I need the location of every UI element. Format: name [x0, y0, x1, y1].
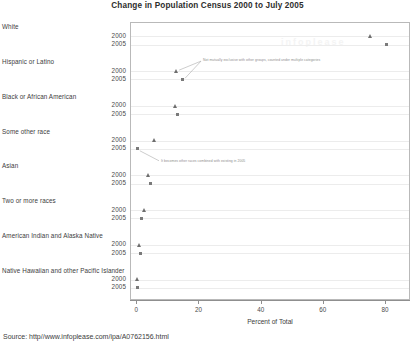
x-tick-label: 0 — [124, 306, 148, 313]
data-point-2000 — [368, 34, 372, 38]
data-point-2000 — [174, 69, 178, 73]
x-tick-label: 80 — [373, 306, 397, 313]
year-tick-label: 2005 — [90, 40, 126, 47]
gridline — [131, 175, 409, 176]
gridline — [131, 184, 409, 185]
gridline — [131, 79, 409, 80]
category-label: Black or African American — [2, 93, 76, 100]
year-tick-label: 2005 — [90, 249, 126, 256]
data-point-2000 — [135, 277, 139, 281]
year-tick-label: 2005 — [90, 144, 126, 151]
x-tick-label: 60 — [311, 306, 335, 313]
gridline — [131, 210, 409, 211]
x-tick-label: 20 — [186, 306, 210, 313]
gridline — [131, 114, 409, 115]
year-tick-label: 2000 — [90, 206, 126, 213]
category-label: Some other race — [2, 128, 50, 135]
year-tick-label: 2005 — [90, 75, 126, 82]
category-label: American Indian and Alaska Native — [2, 232, 103, 239]
source-note: Source: http//www.infoplease.com/ipa/A07… — [3, 333, 169, 340]
category-label: Asian — [2, 162, 18, 169]
year-tick-label: 2000 — [90, 240, 126, 247]
data-point-2000 — [142, 208, 146, 212]
x-tick-label: 40 — [249, 306, 273, 313]
year-tick-label: 2000 — [90, 101, 126, 108]
gridline — [131, 245, 409, 246]
data-point-2005 — [149, 182, 152, 185]
year-tick-label: 2005 — [90, 179, 126, 186]
data-point-2005 — [139, 252, 142, 255]
x-tick — [261, 300, 262, 304]
x-axis-title: Percent of Total — [130, 318, 410, 325]
year-tick-label: 2000 — [90, 32, 126, 39]
plot-area: infoplease Not mutually exclusive with o… — [130, 22, 410, 300]
gridline — [131, 141, 409, 142]
year-tick-label: 2000 — [90, 275, 126, 282]
data-point-2000 — [146, 173, 150, 177]
x-axis: 020406080 — [130, 300, 410, 301]
data-point-2000 — [137, 243, 141, 247]
annotation-note: Not mutually exclusive with other groups… — [203, 58, 320, 62]
category-label: White — [2, 23, 19, 30]
category-label: Hispanic or Latino — [2, 58, 54, 65]
data-point-2000 — [152, 138, 156, 142]
year-tick-label: 2000 — [90, 136, 126, 143]
year-tick-label: 2005 — [90, 110, 126, 117]
category-label: Native Hawaiian and other Pacific Island… — [2, 267, 125, 274]
category-label: Two or more races — [2, 197, 56, 204]
gridline — [131, 149, 409, 150]
data-point-2000 — [173, 104, 177, 108]
year-tick-label: 2005 — [90, 283, 126, 290]
data-point-2005 — [140, 217, 143, 220]
x-tick — [136, 300, 137, 304]
x-tick — [385, 300, 386, 304]
x-tick — [323, 300, 324, 304]
data-point-2005 — [385, 43, 388, 46]
annotation-note: It becomes other races combined with exi… — [161, 159, 245, 163]
year-tick-label: 2005 — [90, 214, 126, 221]
gridline — [131, 280, 409, 281]
gridline — [131, 45, 409, 46]
x-tick — [198, 300, 199, 304]
gridline — [131, 288, 409, 289]
gridline — [131, 218, 409, 219]
data-point-2005 — [181, 78, 184, 81]
data-point-2005 — [176, 113, 179, 116]
year-tick-label: 2000 — [90, 67, 126, 74]
page-title: Change in Population Census 2000 to July… — [0, 1, 415, 10]
data-point-2005 — [136, 286, 139, 289]
data-point-2005 — [136, 147, 139, 150]
gridline — [131, 253, 409, 254]
year-tick-label: 2000 — [90, 171, 126, 178]
